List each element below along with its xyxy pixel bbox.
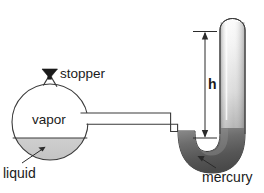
stopper-shape — [42, 69, 58, 79]
liquid-fill — [10, 138, 92, 166]
stopper-plug[interactable] — [42, 69, 58, 79]
stopper-label: stopper — [60, 66, 106, 81]
liquid-label: liquid — [3, 165, 36, 181]
diagram-canvas: stopper vapor liquid mercury h — [0, 0, 264, 193]
mercury-label: mercury — [202, 169, 253, 185]
connector-tube-group — [81, 113, 180, 132]
manometer-tube-shading — [221, 22, 245, 134]
height-label: h — [208, 76, 217, 92]
vapor-label: vapor — [32, 112, 66, 127]
connector-tube-bottom-edge — [87, 124, 178, 131]
connector-tube-fill — [81, 113, 179, 130]
flask-neck-right — [51, 77, 57, 87]
height-arrowhead-down — [202, 130, 208, 138]
manometer-group — [178, 19, 246, 174]
height-arrowhead-up — [202, 32, 208, 40]
apparatus-diagram: stopper vapor liquid mercury h — [0, 0, 264, 193]
